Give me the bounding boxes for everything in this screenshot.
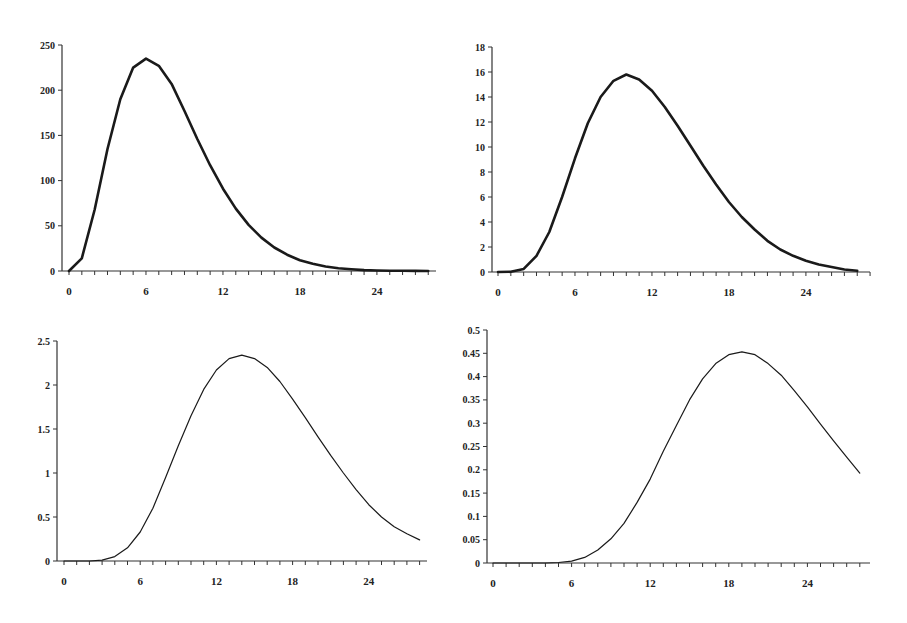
y-tick-label: 0.4: [468, 371, 481, 382]
y-tick-label: 0.15: [463, 488, 481, 499]
y-tick-label: 0: [45, 556, 50, 567]
y-tick-label: 6: [480, 192, 485, 203]
y-tick-label: 0.3: [468, 418, 481, 429]
x-tick-label: 12: [646, 286, 658, 298]
x-tick-label: 12: [211, 575, 223, 587]
y-tick-label: 0.45: [463, 348, 481, 359]
y-tick-label: 0.5: [468, 325, 481, 336]
x-tick-label: 24: [371, 285, 383, 297]
x-tick-label: 18: [294, 285, 306, 297]
y-tick-label: 4: [480, 217, 485, 228]
x-tick-label: 0: [495, 286, 501, 298]
x-tick-label: 18: [723, 286, 735, 298]
y-tick-label: 0.5: [38, 512, 51, 523]
data-series-line: [498, 75, 857, 273]
y-tick-label: 2: [480, 242, 485, 253]
data-series-line: [69, 59, 428, 271]
x-tick-label: 24: [800, 286, 812, 298]
y-tick-label: 12: [475, 117, 485, 128]
y-tick-label: 50: [45, 220, 55, 231]
x-tick-label: 24: [363, 575, 375, 587]
x-tick-label: 6: [569, 577, 575, 589]
chart-top-left: 05010015020025006121824: [40, 40, 436, 298]
x-tick-label: 0: [66, 285, 72, 297]
chart-bottom-right: 00.050.10.150.20.250.30.350.40.450.50612…: [463, 325, 871, 590]
y-tick-label: 200: [40, 85, 55, 96]
y-tick-label: 0.05: [463, 534, 481, 545]
y-tick-label: 10: [475, 142, 485, 153]
x-tick-label: 0: [490, 577, 496, 589]
x-tick-label: 18: [287, 575, 299, 587]
y-tick-label: 16: [475, 67, 485, 78]
x-tick-label: 6: [572, 286, 578, 298]
data-series-line: [64, 355, 420, 561]
y-tick-label: 2.5: [38, 336, 51, 347]
x-tick-label: 12: [645, 577, 657, 589]
y-tick-label: 0.25: [463, 441, 481, 452]
y-tick-label: 0.2: [468, 464, 481, 475]
y-tick-label: 0: [480, 267, 485, 278]
y-tick-label: 0: [50, 266, 55, 277]
y-tick-label: 1.5: [38, 424, 51, 435]
y-tick-label: 14: [475, 92, 485, 103]
y-tick-label: 0.35: [463, 394, 481, 405]
y-tick-label: 0: [475, 558, 480, 569]
y-tick-label: 150: [40, 130, 55, 141]
y-tick-label: 18: [475, 42, 485, 53]
data-series-line: [493, 352, 860, 563]
chart-bottom-left: 00.511.522.506121824: [38, 336, 428, 588]
y-tick-label: 2: [45, 380, 50, 391]
x-tick-label: 18: [723, 577, 735, 589]
chart-top-right: 02468101214161806121824: [475, 42, 870, 299]
x-tick-label: 6: [137, 575, 143, 587]
y-tick-label: 100: [40, 175, 55, 186]
y-tick-label: 250: [40, 40, 55, 51]
y-tick-label: 8: [480, 167, 485, 178]
y-tick-label: 1: [45, 468, 50, 479]
y-tick-label: 0.1: [468, 511, 481, 522]
x-tick-label: 0: [61, 575, 67, 587]
x-tick-label: 6: [143, 285, 149, 297]
x-tick-label: 12: [217, 285, 229, 297]
x-tick-label: 24: [802, 577, 814, 589]
chart-canvas: 0501001502002500612182402468101214161806…: [0, 0, 907, 623]
